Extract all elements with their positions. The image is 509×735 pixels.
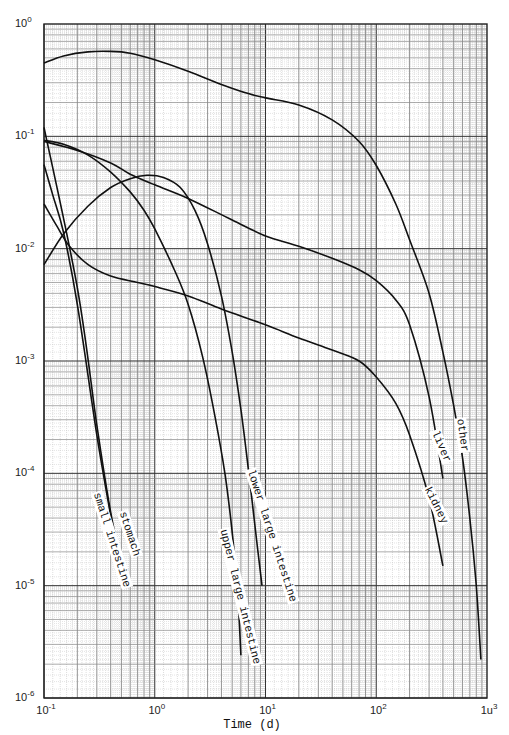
x-tick-label: 101 bbox=[259, 702, 276, 716]
x-tick-label: 100 bbox=[148, 702, 165, 716]
chart-plot bbox=[0, 0, 509, 735]
y-tick-label: 10-1 bbox=[15, 127, 34, 141]
x-axis-label: Time (d) bbox=[223, 718, 281, 732]
x-tick-label: 1u3 bbox=[481, 702, 498, 716]
curve-upper-large-intestine bbox=[44, 140, 241, 655]
x-tick-label: 10-1 bbox=[36, 702, 55, 716]
y-tick-label: 10-3 bbox=[15, 352, 34, 366]
y-tick-label: 10-4 bbox=[15, 464, 34, 478]
y-tick-label: 10-5 bbox=[15, 577, 34, 591]
x-tick-label: 102 bbox=[370, 702, 387, 716]
y-tick-label: 10-2 bbox=[15, 240, 34, 254]
y-tick-label: 100 bbox=[15, 15, 32, 29]
y-tick-label: 10-6 bbox=[15, 689, 34, 703]
